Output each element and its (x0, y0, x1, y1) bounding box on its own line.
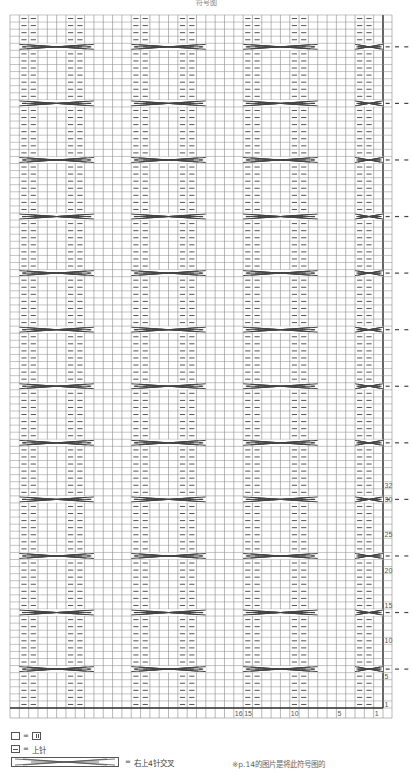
cable-cross-icon (11, 757, 119, 767)
column-number: 10 (291, 710, 299, 717)
row-number: 32 (385, 482, 393, 489)
purl-stitch-icon (11, 745, 20, 753)
row-number: 15 (385, 602, 393, 609)
row-number: 25 (385, 531, 393, 538)
column-number: 16 (235, 710, 243, 717)
legend-eq: = (125, 758, 131, 766)
row-number: 20 (385, 567, 393, 574)
blank-cell-icon (11, 732, 20, 740)
row-number: 30 (385, 496, 393, 503)
legend-cable-label: 右上4针交叉 (134, 757, 174, 768)
knitting-chart: 3230252015105116151051 (0, 0, 412, 730)
legend-knit: = (11, 731, 41, 741)
legend-purl-label: 上针 (32, 744, 46, 755)
legend-cable: = 右上4针交叉 (11, 757, 174, 767)
row-number: 10 (385, 637, 393, 644)
row-number: 5 (385, 673, 389, 680)
column-number: 1 (375, 710, 379, 717)
row-number: 1 (385, 701, 389, 708)
knit-stitch-icon (32, 732, 41, 740)
legend-purl: = 上针 (11, 744, 46, 754)
chart-note: ※p.14的图片是将此符号图的 (232, 758, 325, 769)
legend-eq: = (23, 732, 29, 740)
legend-eq: = (23, 745, 29, 753)
column-number: 15 (244, 710, 252, 717)
column-number: 5 (337, 710, 341, 717)
